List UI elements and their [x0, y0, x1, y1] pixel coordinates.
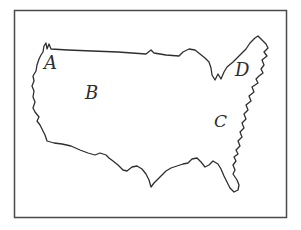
map-label-b: B: [85, 84, 98, 102]
map-label-d: D: [235, 61, 249, 79]
us-outline: [32, 36, 268, 192]
map-figure: A B C D: [0, 0, 301, 230]
us-map-drawing: [0, 0, 301, 230]
map-label-c: C: [214, 113, 227, 130]
map-label-a: A: [44, 54, 57, 72]
